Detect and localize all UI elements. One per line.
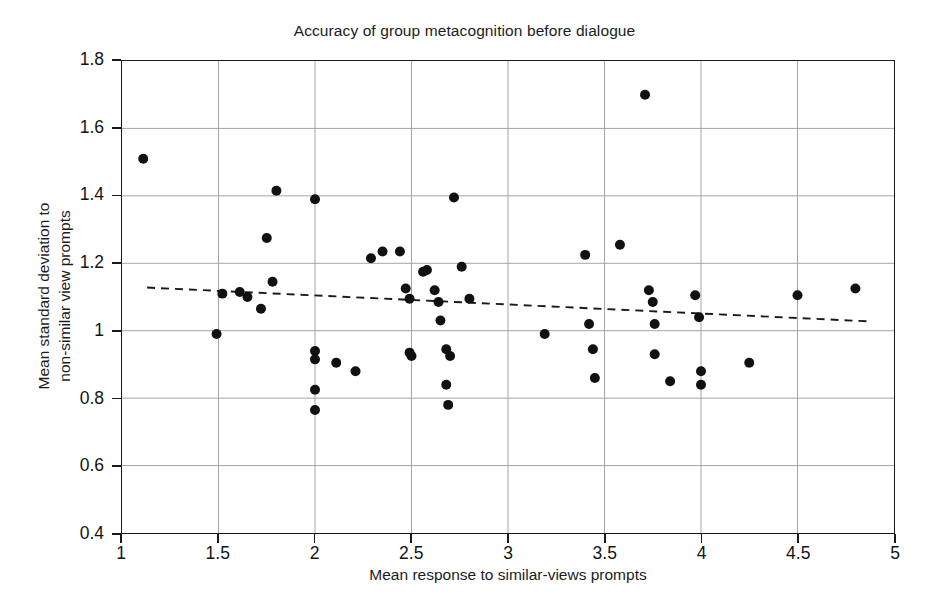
y-tick-mark xyxy=(112,398,121,400)
data-point xyxy=(268,277,278,287)
data-point xyxy=(696,380,706,390)
data-point xyxy=(441,380,451,390)
data-point xyxy=(422,265,432,275)
data-point xyxy=(310,354,320,364)
x-tick-mark xyxy=(797,534,799,543)
data-point xyxy=(443,400,453,410)
data-point xyxy=(435,316,445,326)
data-point xyxy=(445,351,455,361)
data-point xyxy=(449,193,459,203)
data-point xyxy=(310,405,320,415)
data-point xyxy=(584,319,594,329)
y-tick-mark xyxy=(112,127,121,129)
x-tick-label: 4 xyxy=(672,543,732,564)
data-point xyxy=(650,349,660,359)
data-point xyxy=(262,233,272,243)
x-tick-mark xyxy=(604,534,606,543)
data-point xyxy=(310,194,320,204)
data-point xyxy=(256,304,266,314)
data-point xyxy=(434,297,444,307)
x-tick-mark xyxy=(314,534,316,543)
x-tick-label: 4.5 xyxy=(768,543,828,564)
data-point xyxy=(138,154,148,164)
x-tick-label: 3.5 xyxy=(575,543,635,564)
data-point xyxy=(430,285,440,295)
x-tick-mark xyxy=(410,534,412,543)
plot-area xyxy=(121,60,895,534)
data-point xyxy=(217,289,227,299)
data-point xyxy=(457,262,467,272)
y-tick-mark xyxy=(112,59,121,61)
data-point xyxy=(644,285,654,295)
data-point xyxy=(464,294,474,304)
data-point xyxy=(694,312,704,322)
x-tick-label: 5 xyxy=(865,543,925,564)
data-point xyxy=(212,329,222,339)
data-point xyxy=(648,297,658,307)
y-tick-mark xyxy=(112,465,121,467)
y-tick-mark xyxy=(112,262,121,264)
y-tick-mark xyxy=(112,195,121,197)
data-point xyxy=(580,250,590,260)
y-tick-label: 1.8 xyxy=(48,49,104,70)
scatter-plot-figure: Accuracy of group metacognition before d… xyxy=(0,0,929,601)
data-point xyxy=(665,376,675,386)
data-point xyxy=(401,284,411,294)
data-point xyxy=(696,366,706,376)
x-tick-label: 1 xyxy=(91,543,151,564)
data-point xyxy=(850,284,860,294)
data-points xyxy=(122,61,894,533)
data-point xyxy=(650,319,660,329)
data-point xyxy=(378,247,388,257)
data-point xyxy=(588,344,598,354)
x-tick-mark xyxy=(507,534,509,543)
y-axis-label: Mean standard deviation to non-similar v… xyxy=(33,86,75,506)
x-tick-mark xyxy=(701,534,703,543)
y-axis-label-line-1: Mean standard deviation to xyxy=(33,86,54,506)
data-point xyxy=(744,358,754,368)
x-tick-mark xyxy=(894,534,896,543)
data-point xyxy=(407,351,417,361)
x-tick-label: 3 xyxy=(478,543,538,564)
data-point xyxy=(405,294,415,304)
data-point xyxy=(615,240,625,250)
x-tick-label: 1.5 xyxy=(188,543,248,564)
data-point xyxy=(242,292,252,302)
x-axis-label: Mean response to similar-views prompts xyxy=(121,566,895,584)
data-point xyxy=(640,90,650,100)
y-axis-label-line-2: non-similar view prompts xyxy=(54,86,75,506)
y-tick-label: 0.4 xyxy=(48,523,104,544)
data-point xyxy=(395,247,405,257)
x-tick-label: 2.5 xyxy=(381,543,441,564)
data-point xyxy=(793,290,803,300)
chart-title: Accuracy of group metacognition before d… xyxy=(0,22,929,40)
x-tick-mark xyxy=(217,534,219,543)
data-point xyxy=(590,373,600,383)
data-point xyxy=(366,253,376,263)
data-point xyxy=(540,329,550,339)
data-point xyxy=(331,358,341,368)
x-tick-mark xyxy=(120,534,122,543)
x-tick-label: 2 xyxy=(285,543,345,564)
y-tick-mark xyxy=(112,330,121,332)
data-point xyxy=(351,366,361,376)
data-point xyxy=(271,186,281,196)
data-point xyxy=(310,385,320,395)
data-point xyxy=(690,290,700,300)
